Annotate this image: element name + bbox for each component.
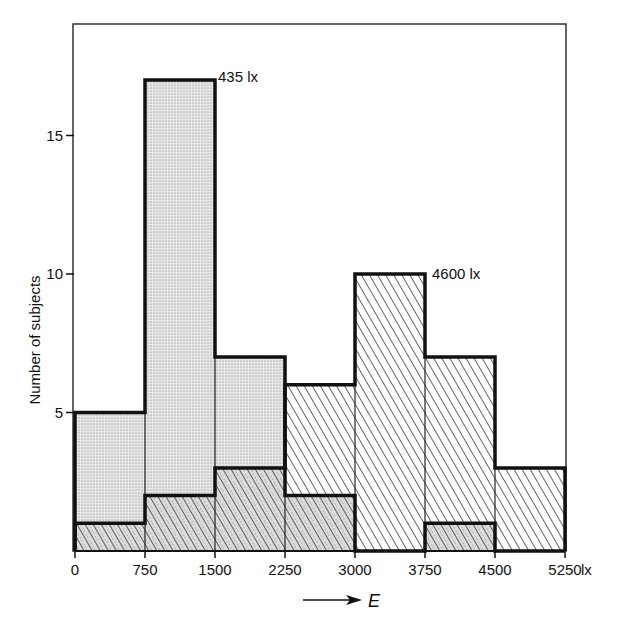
- bar-overlap: [285, 496, 355, 551]
- x-variable-label: E: [368, 591, 381, 611]
- histogram-chart: 51015 0750150022503000375045005250 lx Nu…: [0, 0, 623, 628]
- bar-4600lx: [285, 385, 355, 496]
- bar-overlap: [75, 523, 145, 551]
- y-tick-label: 10: [46, 265, 63, 282]
- y-axis-label: Number of subjects: [26, 275, 43, 404]
- annotation-435lx: 435 lx: [218, 68, 259, 85]
- y-tick-label: 5: [55, 404, 63, 421]
- bar-overlap: [145, 496, 215, 551]
- x-tick-label: 0: [71, 561, 79, 578]
- x-tick-label: 1500: [198, 561, 231, 578]
- bar-435lx: [215, 357, 285, 468]
- x-tick-label: 4500: [478, 561, 511, 578]
- bar-4600lx: [355, 274, 425, 551]
- bar-overlap: [215, 468, 285, 551]
- annotation-4600lx: 4600 lx: [432, 265, 481, 282]
- bar-435lx: [75, 413, 145, 524]
- bar-4600lx: [495, 468, 565, 551]
- x-tick-label: 3000: [338, 561, 371, 578]
- x-tick-label: 3750: [408, 561, 441, 578]
- y-tick-label: 15: [46, 127, 63, 144]
- x-tick-label: 5250: [548, 561, 581, 578]
- x-variable-arrow: [303, 595, 362, 605]
- x-tick-label: 750: [132, 561, 157, 578]
- x-unit-label: lx: [581, 561, 592, 578]
- y-axis-ticks: 51015: [46, 127, 74, 421]
- x-axis-ticks: 0750150022503000375045005250: [71, 551, 582, 578]
- x-tick-label: 2250: [268, 561, 301, 578]
- bar-435lx: [145, 80, 215, 496]
- bars-group: [75, 80, 565, 551]
- bar-overlap: [425, 523, 495, 551]
- bar-4600lx: [425, 357, 495, 523]
